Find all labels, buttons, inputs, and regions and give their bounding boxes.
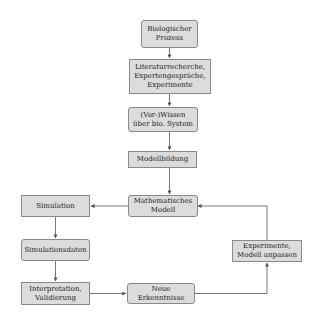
node-modellbildung: Modellbildung xyxy=(128,151,197,168)
node-literaturrecherche: Literaturrecherche, Expertengespräche, E… xyxy=(129,59,211,94)
node-mathematisches-modell: Mathematisches Modell xyxy=(128,195,198,217)
node-simulation: Simulation xyxy=(21,195,90,217)
node-biologischer-prozess: Biologischer Prozess xyxy=(141,20,198,48)
node-interpretation-validierung: Interpretation, Validierung xyxy=(21,282,90,305)
node-vorwissen: (Vor-)Wissen über bio. System xyxy=(128,107,198,132)
node-simulationsdaten: Simulationsdaten xyxy=(21,239,90,261)
edge-n9-n10 xyxy=(195,263,267,294)
node-neue-erkenntnisse: Neue Erkenntnisse xyxy=(127,283,195,304)
edge-n10-n5 xyxy=(198,206,267,240)
node-experimente-modell-anpassen: Experimente, Modell anpassen xyxy=(232,240,302,262)
